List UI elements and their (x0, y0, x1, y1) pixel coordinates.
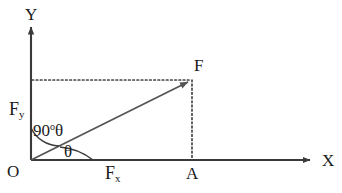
degree-symbol: o (50, 121, 55, 132)
fx-component-label: Fx (105, 164, 121, 182)
x-axis-label: X (322, 152, 334, 169)
fy-subscript: y (19, 108, 25, 120)
fx-subscript: x (115, 172, 121, 184)
angle-value: 90 (33, 121, 50, 140)
origin-label: O (7, 163, 19, 180)
vector-components-diagram (0, 0, 342, 193)
point-a-label: A (186, 165, 198, 182)
fy-symbol: F (9, 99, 19, 119)
fx-symbol: F (105, 163, 115, 183)
angle-from-y-axis-label: 90oθ (33, 122, 63, 139)
y-axis-label: Y (25, 6, 37, 23)
fy-component-label: Fy (9, 100, 25, 118)
diagram-canvas: Y X O A F Fy Fx 90oθ θ (0, 0, 342, 193)
angle-from-x-axis-label: θ (64, 143, 72, 160)
point-f-label: F (194, 57, 203, 74)
theta-symbol: θ (55, 121, 63, 140)
